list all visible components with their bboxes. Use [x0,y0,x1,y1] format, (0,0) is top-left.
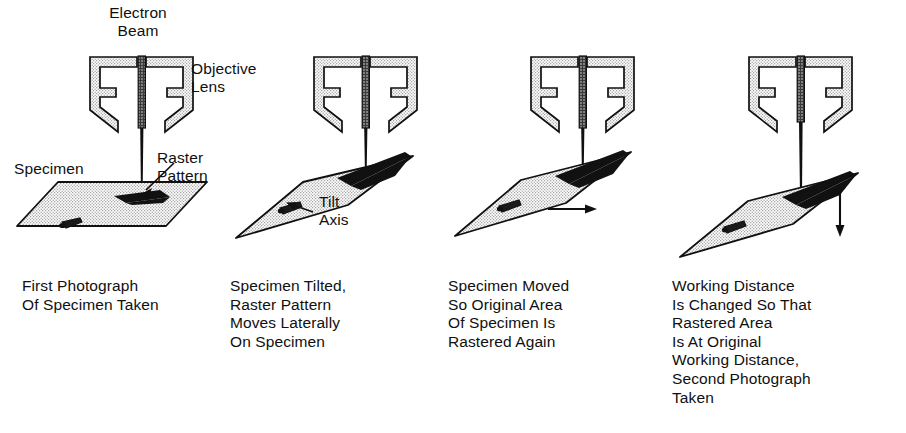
panel-3-svg [445,0,660,270]
objective-lens-right-pole [370,57,417,132]
panel-4-svg [660,0,906,270]
objective-lens-right-pole [587,57,634,132]
panel-4-caption: Working Distance Is Changed So That Rast… [672,277,811,407]
panel-3-artwork [445,0,660,270]
electron-beam [579,56,586,178]
panel-4-artwork [660,0,906,270]
electron-beam [138,56,145,196]
objective-lens-left-pole [314,57,361,132]
sem-stereo-diagram: Electron Beam Specimen Raster Pattern Fi… [0,0,906,433]
panel-1-caption: First Photograph Of Specimen Taken [22,277,159,314]
tilt-axis-label: Tilt Axis [319,193,349,230]
panel-specimen-tilted: Tilt Axis Specimen Tilted, Raster Patter… [225,0,445,433]
electron-beam [797,56,804,196]
objective-lens-left-pole [531,57,578,132]
panel-specimen-moved: Specimen Moved So Original Area Of Speci… [445,0,660,433]
objective-lens-left-pole [749,57,796,132]
panel-2-caption: Specimen Tilted, Raster Pattern Moves La… [230,277,346,351]
raster-pattern-label: Raster Pattern [157,149,208,186]
objective-lens-right-pole [146,57,193,132]
electron-beam-label: Electron Beam [78,4,198,41]
objective-lens-right-pole [805,57,852,132]
specimen-label: Specimen [14,160,84,178]
specimen-stage [17,182,207,228]
working-distance-arrow-down [836,191,845,237]
electron-beam [362,56,369,176]
panel-3-caption: Specimen Moved So Original Area Of Speci… [448,277,569,351]
panel-working-distance: Working Distance Is Changed So That Rast… [660,0,906,433]
objective-lens-left-pole [90,57,137,132]
